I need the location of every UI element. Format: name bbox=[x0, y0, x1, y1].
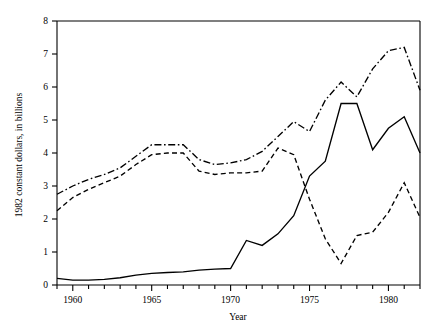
x-tick-label: 1960 bbox=[63, 295, 82, 305]
y-tick-label: 4 bbox=[43, 148, 48, 158]
y-tick-label: 7 bbox=[43, 49, 48, 59]
y-tick-label: 2 bbox=[43, 214, 48, 224]
y-tick-label: 8 bbox=[43, 16, 48, 26]
y-tick-label: 6 bbox=[43, 82, 48, 92]
x-tick-label: 1980 bbox=[379, 295, 398, 305]
x-tick-label: 1975 bbox=[300, 295, 319, 305]
y-tick-label: 1 bbox=[43, 247, 48, 257]
x-tick-label: 1970 bbox=[221, 295, 240, 305]
x-tick-label: 1965 bbox=[142, 295, 161, 305]
y-tick-label: 3 bbox=[43, 181, 48, 191]
chart-container: 012345678 19601965197019751980 Year 1982… bbox=[0, 0, 441, 328]
y-tick-label: 0 bbox=[43, 280, 48, 290]
y-tick-label: 5 bbox=[43, 115, 48, 125]
line-chart: 012345678 19601965197019751980 Year 1982… bbox=[0, 0, 441, 328]
y-axis-title: 1982 constant dollars, in billions bbox=[14, 93, 24, 218]
x-axis-title: Year bbox=[229, 312, 247, 322]
